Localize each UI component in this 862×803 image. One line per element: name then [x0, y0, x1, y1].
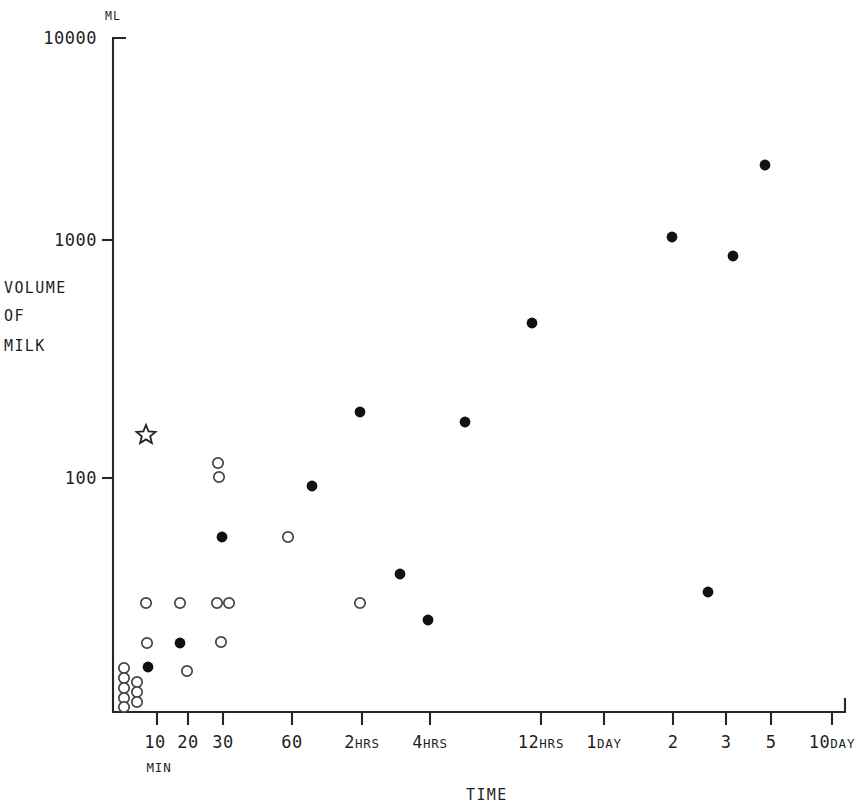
data-point-open: [283, 532, 293, 542]
data-point-star: [136, 425, 155, 443]
data-point-filled: [307, 481, 318, 492]
data-point-group: [119, 160, 771, 713]
data-point-filled: [217, 532, 228, 543]
data-point-open: [224, 598, 234, 608]
y-axis-unit-label: ML: [105, 9, 121, 23]
x-tick-label-4: 2HRS: [344, 732, 380, 752]
data-point-filled: [143, 662, 154, 673]
x-tick-label-3: 60: [281, 732, 302, 752]
data-point-open: [182, 666, 192, 676]
data-point-open: [216, 637, 226, 647]
y-axis-title-line-3: MILK: [4, 337, 46, 355]
data-point-open: [355, 598, 365, 608]
data-point-open: [119, 702, 129, 712]
x-tick-label-2: 30: [212, 732, 233, 752]
y-tick-label-2: 100: [65, 468, 97, 488]
y-axis-ticks: 100001000100: [43, 28, 113, 488]
x-tick-label-6: 12HRS: [518, 732, 564, 752]
x-tick-label-0: 10: [144, 732, 165, 752]
data-point-filled: [527, 318, 538, 329]
x-tick-label-10: 5: [766, 732, 777, 752]
data-point-open: [119, 663, 129, 673]
x-tick-sublabel-0: MIN: [147, 760, 172, 775]
data-point-filled: [395, 569, 406, 580]
data-point-open: [142, 638, 152, 648]
data-point-filled: [703, 587, 714, 598]
data-point-open: [132, 687, 142, 697]
y-axis-title-line-1: VOLUME: [4, 279, 67, 297]
x-tick-label-5: 4HRS: [412, 732, 448, 752]
scatter-chart: ML VOLUME OF MILK TIME 100001000100 10MI…: [0, 0, 862, 803]
y-axis-title-line-2: OF: [4, 307, 25, 325]
data-point-open: [141, 598, 151, 608]
chart-axes: [113, 38, 845, 712]
data-point-open: [175, 598, 185, 608]
data-point-filled: [355, 407, 366, 418]
data-point-open: [119, 683, 129, 693]
x-tick-label-11: 10DAY: [809, 732, 855, 752]
data-point-open: [212, 598, 222, 608]
data-point-filled: [667, 232, 678, 243]
x-axis-ticks: 10MIN2030602HRS4HRS12HRS1DAY23510DAY: [144, 712, 855, 775]
y-tick-label-1: 1000: [54, 230, 97, 250]
data-point-open: [132, 697, 142, 707]
data-point-open: [214, 472, 224, 482]
data-point-open: [213, 458, 223, 468]
x-tick-label-1: 20: [177, 732, 198, 752]
data-point-open: [119, 673, 129, 683]
data-point-filled: [423, 615, 434, 626]
y-tick-label-0: 10000: [43, 28, 97, 48]
x-tick-label-9: 3: [721, 732, 732, 752]
x-tick-label-8: 2: [668, 732, 679, 752]
chart-canvas: ML VOLUME OF MILK TIME 100001000100 10MI…: [0, 0, 862, 803]
data-point-filled: [760, 160, 771, 171]
data-point-filled: [175, 638, 186, 649]
x-axis-title: TIME: [466, 786, 508, 803]
x-tick-label-7: 1DAY: [586, 732, 622, 752]
data-point-filled: [728, 251, 739, 262]
data-point-filled: [460, 417, 471, 428]
data-point-open: [132, 677, 142, 687]
